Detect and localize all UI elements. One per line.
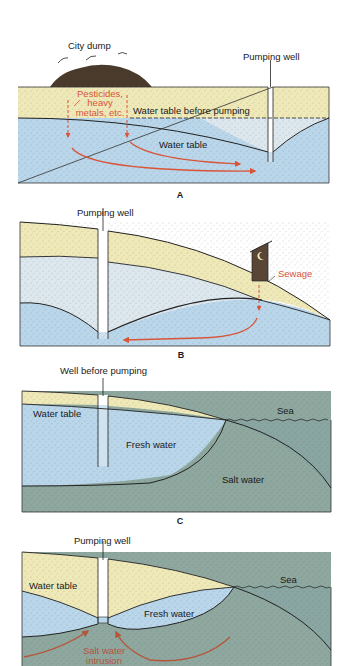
pumping-well-label: Pumping well	[243, 51, 300, 62]
water-table-label: Water table	[159, 139, 207, 150]
salt-water-intrusion-label-2: intrusion	[86, 655, 122, 666]
pumping-well-label: Pumping well	[74, 535, 131, 546]
panel-letter-b: B	[178, 350, 185, 360]
panel-b: Pumping well Sewage B	[20, 207, 330, 360]
water-table-label: Water table	[29, 580, 77, 591]
salt-water-label: Salt water	[222, 474, 264, 485]
panel-letter-c: C	[177, 516, 184, 526]
water-table-before-pumping-label: Water table before pumping	[133, 105, 250, 116]
bird-icon	[86, 56, 96, 60]
sea-label: Sea	[280, 574, 298, 585]
well-before-pumping-label: Well before pumping	[60, 365, 147, 376]
panel-d: Pumping well Water table Sea Fresh water…	[22, 535, 331, 666]
water-table-label: Water table	[33, 408, 81, 419]
panel-c: Well before pumping Water table Sea Fres…	[22, 365, 331, 526]
city-dump-label: City dump	[68, 40, 111, 51]
bird-icon	[58, 58, 68, 63]
contaminants-label-3: metals, etc.	[76, 107, 125, 118]
fresh-water-label: Fresh water	[126, 439, 176, 450]
fresh-water-label: Fresh water	[144, 608, 194, 619]
bird-icon	[118, 53, 127, 55]
pumping-well-label: Pumping well	[77, 207, 134, 218]
sea-label: Sea	[277, 405, 295, 416]
sewage-label: Sewage	[278, 268, 312, 279]
panel-a: City dump Pumping well Pesticides, heavy…	[18, 40, 329, 200]
groundwater-contamination-diagram: City dump Pumping well Pesticides, heavy…	[0, 0, 352, 666]
panel-letter-a: A	[177, 190, 184, 200]
